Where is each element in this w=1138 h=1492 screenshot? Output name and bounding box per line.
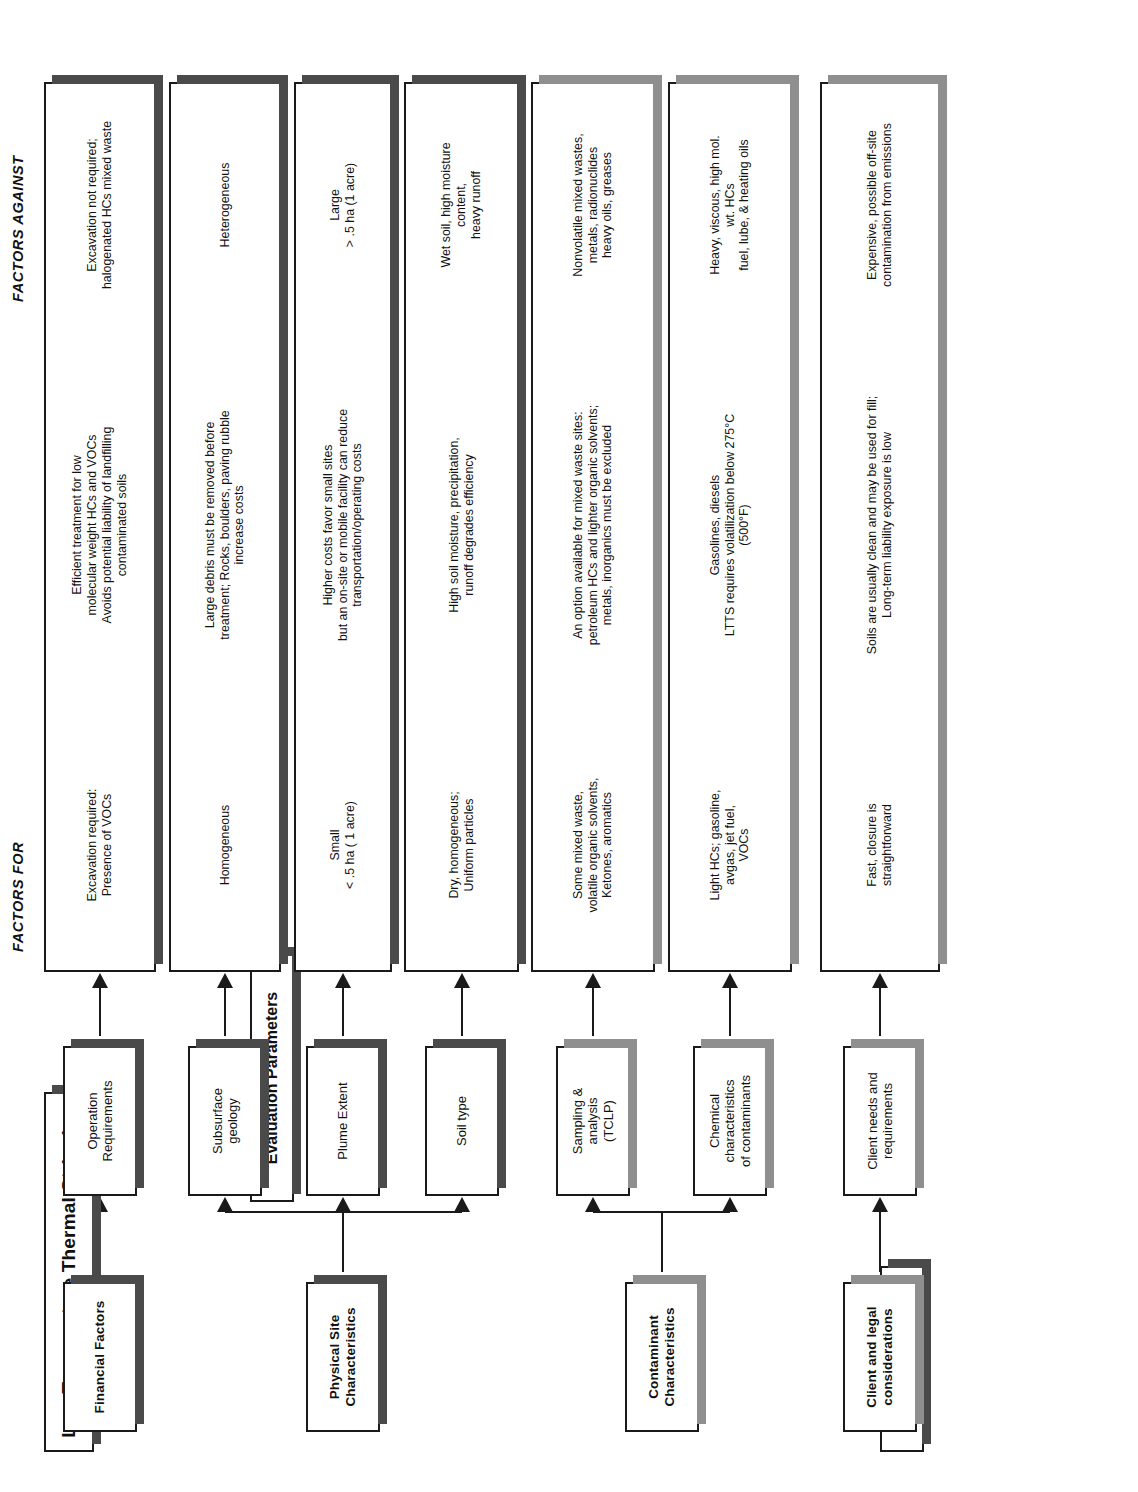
row-6-factors-against: Expensive, possible off-sitecontaminatio… [822, 80, 938, 330]
connector-stub-client-legal [879, 1212, 881, 1272]
row-band-4: Some mixed waste,volatile organic solven… [531, 82, 655, 972]
arrow-param-4 [585, 973, 601, 988]
row-band-0: Excavation required:Presence of VOCsEffi… [44, 82, 156, 972]
parameter-label-5: Chemicalcharacteristicsof contaminants [705, 1048, 755, 1194]
row-4-factors-for: Some mixed waste,volatile organic solven… [533, 720, 653, 970]
connector-param-3 [461, 987, 463, 1036]
connector-stub-contaminant [661, 1212, 663, 1272]
arrow-group-physical-site-2 [335, 1197, 351, 1212]
row-6-evaluation: Soils are usually clean and may be used … [822, 330, 938, 720]
connector-stub-physical-site [342, 1212, 344, 1272]
row-4-factors-against: Nonvolatile mixed wastes,metals, radionu… [533, 80, 653, 330]
row-0-factors-against: Excavation not required;halogenated HCs … [46, 80, 154, 330]
row-5-factors-against: Heavy, viscous, high mol.wt. HCsfuel, lu… [670, 80, 790, 330]
parameter-label-2: Plume Extent [333, 1048, 352, 1194]
parameter-box-6[interactable]: Client needs andrequirements [843, 1046, 917, 1196]
parameter-label-3: Soil type [452, 1048, 471, 1194]
parameter-label-6: Client needs andrequirements [863, 1048, 898, 1194]
parameter-box-1[interactable]: Subsurfacegeology [188, 1046, 262, 1196]
row-3-factors-against: Wet soil, high moisturecontent,heavy run… [406, 80, 517, 330]
group-label-contaminant: ContaminantCharacteristics [644, 1284, 680, 1430]
arrow-group-client-legal-6 [872, 1197, 888, 1212]
row-2-factors-against: Large> .5 ha (1 acre) [296, 80, 390, 330]
connector-param-2 [342, 987, 344, 1036]
connector-param-1 [224, 987, 226, 1036]
parameter-box-5[interactable]: Chemicalcharacteristicsof contaminants [693, 1046, 767, 1196]
column-label-factors-against: FACTORS AGAINST [10, 155, 26, 302]
row-0-factors-for: Excavation required:Presence of VOCs [46, 720, 154, 970]
row-2-factors-for: Small< .5 ha ( 1 acre) [296, 720, 390, 970]
arrow-param-0 [92, 973, 108, 988]
arrow-param-5 [722, 973, 738, 988]
flowchart-canvas: Low Temperature Thermal StrippingDecisio… [0, 0, 1138, 1492]
row-band-6: Fast, closure isstraightforwardSoils are… [820, 82, 940, 972]
row-band-3: Dry, homogeneous;Uniform particlesHigh s… [404, 82, 519, 972]
group-label-financial: Financial Factors [90, 1284, 110, 1430]
row-3-factors-for: Dry, homogeneous;Uniform particles [406, 720, 517, 970]
arrow-param-6 [872, 973, 888, 988]
row-band-5: Light HCs; gasoline,avgas, jet fuel,VOCs… [668, 82, 792, 972]
parameter-label-4: Sampling &analysis(TCLP) [568, 1048, 618, 1194]
parameter-label-0: OperationRequirements [83, 1048, 118, 1194]
arrow-group-physical-site-3 [454, 1197, 470, 1212]
row-5-evaluation: Gasolines, dieselsLTTS requires volatili… [670, 330, 790, 720]
parameter-box-2[interactable]: Plume Extent [306, 1046, 380, 1196]
parameter-box-4[interactable]: Sampling &analysis(TCLP) [556, 1046, 630, 1196]
parameter-label-1: Subsurfacegeology [208, 1048, 243, 1194]
row-3-evaluation: High soil moisture, precipitation,runoff… [406, 330, 517, 720]
arrow-group-contaminant-4 [585, 1197, 601, 1212]
group-label-client-legal: Client and legalconsiderations [862, 1284, 898, 1430]
row-5-factors-for: Light HCs; gasoline,avgas, jet fuel,VOCs [670, 720, 790, 970]
connector-param-4 [592, 987, 594, 1036]
arrow-param-3 [454, 973, 470, 988]
row-1-factors-for: Homogeneous [171, 720, 279, 970]
connector-param-6 [879, 987, 881, 1036]
arrow-group-physical-site-1 [217, 1197, 233, 1212]
group-box-contaminant[interactable]: ContaminantCharacteristics [625, 1282, 699, 1432]
row-band-1: HomogeneousLarge debris must be removed … [169, 82, 281, 972]
arrow-param-1 [217, 973, 233, 988]
column-label-factors-for: FACTORS FOR [10, 842, 26, 952]
group-label-physical-site: Physical SiteCharacteristics [325, 1284, 361, 1430]
parameter-box-3[interactable]: Soil type [425, 1046, 499, 1196]
row-band-2: Small< .5 ha ( 1 acre)Higher costs favor… [294, 82, 392, 972]
row-1-evaluation: Large debris must be removed beforetreat… [171, 330, 279, 720]
connector-param-0 [99, 987, 101, 1036]
row-6-factors-for: Fast, closure isstraightforward [822, 720, 938, 970]
arrow-group-contaminant-5 [722, 1197, 738, 1212]
group-box-physical-site[interactable]: Physical SiteCharacteristics [306, 1282, 380, 1432]
connector-param-5 [729, 987, 731, 1036]
group-box-financial[interactable]: Financial Factors [63, 1282, 137, 1432]
row-2-evaluation: Higher costs favor small sitesbut an on-… [296, 330, 390, 720]
arrow-param-2 [335, 973, 351, 988]
parameter-box-0[interactable]: OperationRequirements [63, 1046, 137, 1196]
row-0-evaluation: Efficient treatment for lowmolecular wei… [46, 330, 154, 720]
row-1-factors-against: Heterogeneous [171, 80, 279, 330]
connector-bus-contaminant [593, 1211, 730, 1213]
row-4-evaluation: An option available for mixed waste site… [533, 330, 653, 720]
group-box-client-legal[interactable]: Client and legalconsiderations [843, 1282, 917, 1432]
